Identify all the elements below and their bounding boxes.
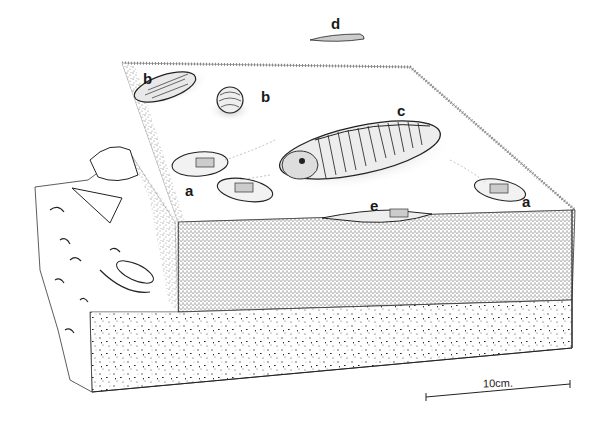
- label-e: e: [370, 198, 378, 213]
- label-a-right: a: [522, 194, 530, 209]
- label-a-left: a: [185, 183, 193, 198]
- diagram-svg: [0, 0, 605, 427]
- trilobite-block-diagram: d b b c a a e 10cm.: [0, 0, 605, 427]
- label-b-elongate: b: [143, 71, 152, 86]
- scale-bar-label: 10cm.: [483, 377, 513, 390]
- label-d: d: [331, 16, 340, 31]
- label-b-enrolled: b: [261, 89, 270, 104]
- trilobite-d: [310, 34, 364, 41]
- label-c: c: [397, 103, 405, 118]
